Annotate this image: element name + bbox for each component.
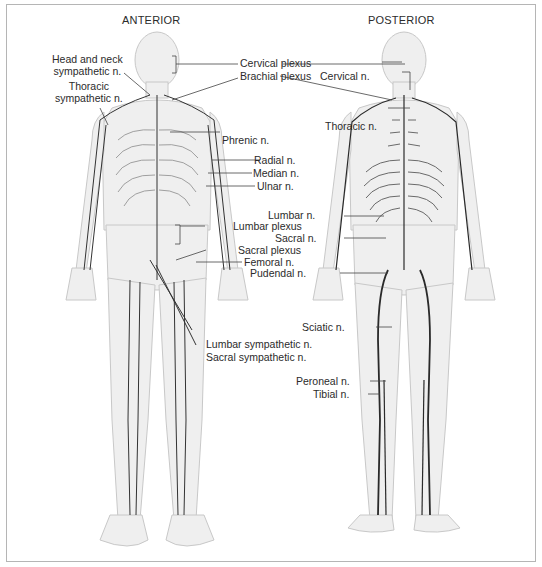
label-thoracic-n: Thoracic n.: [325, 120, 377, 132]
view-title-anterior: ANTERIOR: [122, 14, 180, 26]
label-head-neck-sympathetic: Head and neck sympathetic n.: [52, 53, 123, 77]
label-brachial-plexus: Brachial plexus: [240, 70, 311, 82]
label-sacral-sympathetic: Sacral sympathetic n.: [206, 351, 306, 363]
label-sacral-n: Sacral n.: [275, 232, 316, 244]
label-cervical-plexus: Cervical plexus: [240, 57, 311, 69]
label-lumbar-n: Lumbar n.: [268, 209, 315, 221]
label-lumbar-plexus: Lumbar plexus: [233, 220, 302, 232]
label-sciatic-n: Sciatic n.: [302, 321, 345, 333]
label-cervical-n: Cervical n.: [320, 70, 370, 82]
label-pudendal-n: Pudendal n.: [250, 267, 306, 279]
label-median: Median n.: [253, 167, 299, 179]
label-lumbar-sympathetic: Lumbar sympathetic n.: [206, 338, 312, 350]
view-title-posterior: POSTERIOR: [368, 14, 435, 26]
label-radial: Radial n.: [254, 154, 295, 166]
label-phrenic: Phrenic n.: [222, 134, 269, 146]
label-tibial-n: Tibial n.: [313, 388, 349, 400]
label-ulnar: Ulnar n.: [257, 180, 294, 192]
label-peroneal-n: Peroneal n.: [296, 375, 350, 387]
label-sacral-plexus: Sacral plexus: [238, 244, 301, 256]
label-thoracic-sympathetic: Thoracic sympathetic n.: [55, 80, 123, 104]
